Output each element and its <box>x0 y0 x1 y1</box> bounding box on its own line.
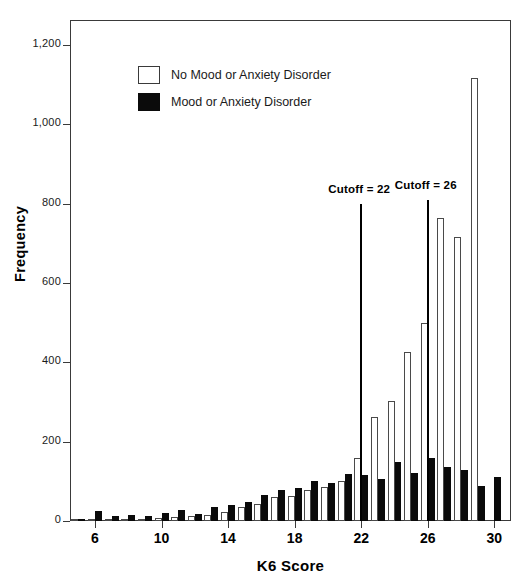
bar-white-k6-10 <box>155 518 162 521</box>
cutoff-22-label: Cutoff = 22 <box>328 183 390 195</box>
bar-black-k6-13 <box>211 507 218 521</box>
bar-white-k6-18 <box>288 496 295 521</box>
bar-white-k6-8 <box>121 519 128 521</box>
bar-black-k6-28 <box>461 470 468 521</box>
bar-white-k6-23 <box>371 417 378 521</box>
bar-black-k6-10 <box>162 513 169 521</box>
bar-black-k6-12 <box>195 514 202 521</box>
legend-swatch-black <box>138 93 160 111</box>
bar-black-k6-8 <box>128 515 135 521</box>
legend-swatch-white <box>138 66 160 84</box>
bar-white-k6-20 <box>321 487 328 521</box>
bar-black-k6-9 <box>145 516 152 521</box>
bar-white-k6-13 <box>204 515 211 521</box>
legend-item-disorder: Mood or Anxiety Disorder <box>138 93 331 111</box>
cutoff-22-line <box>360 204 362 521</box>
bar-black-k6-15 <box>245 502 252 521</box>
bar-black-k6-25 <box>411 473 418 521</box>
bar-black-k6-7 <box>112 516 119 521</box>
bar-white-k6-17 <box>271 497 278 521</box>
legend-label-disorder: Mood or Anxiety Disorder <box>171 95 311 109</box>
bar-black-k6-16 <box>261 495 268 521</box>
bar-white-k6-12 <box>188 516 195 521</box>
bar-white-k6-16 <box>254 504 261 521</box>
bar-white-k6-25 <box>404 352 411 521</box>
chart-legend: No Mood or Anxiety Disorder Mood or Anxi… <box>138 66 331 120</box>
bar-black-k6-14 <box>228 505 235 521</box>
bar-white-k6-11 <box>171 517 178 521</box>
bar-black-k6-21 <box>345 474 352 521</box>
bar-white-k6-14 <box>221 512 228 521</box>
legend-label-no-disorder: No Mood or Anxiety Disorder <box>171 68 331 82</box>
bar-white-k6-29 <box>471 78 478 521</box>
bar-white-k6-24 <box>388 401 395 521</box>
legend-item-no-disorder: No Mood or Anxiety Disorder <box>138 66 331 84</box>
cutoff-26-line <box>427 200 429 521</box>
bar-black-k6-23 <box>378 479 385 521</box>
bar-black-k6-18 <box>295 488 302 521</box>
bar-black-k6-20 <box>328 483 335 521</box>
bar-black-k6-5 <box>78 519 85 521</box>
bar-black-k6-22 <box>361 475 368 521</box>
bar-black-k6-30 <box>494 477 501 521</box>
bar-black-k6-6 <box>95 511 102 521</box>
bar-black-k6-26 <box>428 458 435 521</box>
bar-white-k6-7 <box>105 519 112 521</box>
bar-white-k6-6 <box>88 519 95 521</box>
bar-black-k6-11 <box>178 510 185 521</box>
bar-white-k6-28 <box>454 237 461 521</box>
bar-black-k6-17 <box>278 490 285 521</box>
bar-white-k6-9 <box>138 519 145 521</box>
bar-white-k6-21 <box>338 481 345 521</box>
bar-white-k6-19 <box>304 490 311 521</box>
k6-score-frequency-histogram: Frequency 02004006008001,0001,200 K6 Sco… <box>0 0 525 588</box>
bar-white-k6-5 <box>71 519 78 521</box>
bar-white-k6-27 <box>437 218 444 521</box>
bar-black-k6-24 <box>395 462 402 521</box>
cutoff-26-label: Cutoff = 26 <box>395 179 457 191</box>
bar-black-k6-19 <box>311 481 318 521</box>
bar-white-k6-15 <box>238 507 245 521</box>
bar-black-k6-27 <box>444 467 451 521</box>
bar-black-k6-29 <box>478 486 485 521</box>
